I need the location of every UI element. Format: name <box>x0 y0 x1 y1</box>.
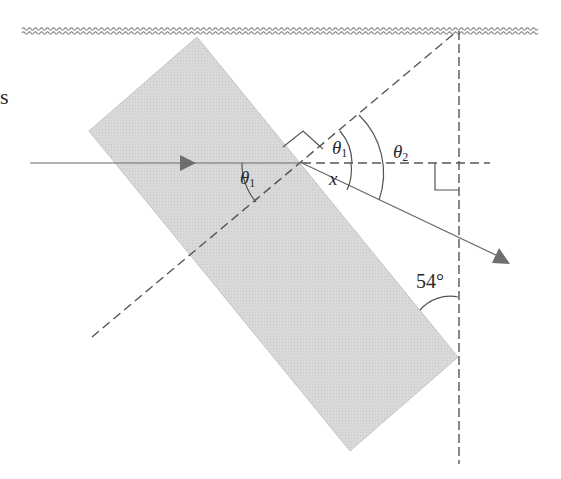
glass-slab <box>89 37 458 451</box>
ceiling-wavy-line <box>22 28 538 34</box>
right-angle-marker-vertical <box>435 163 459 190</box>
right-angle-marker-normal <box>283 131 323 149</box>
theta1-inside-label: θ1 <box>240 168 255 189</box>
refraction-diagram <box>0 0 561 479</box>
edge-text-fragment: s <box>0 84 9 110</box>
angle-54-arc <box>420 296 458 310</box>
theta2-arc <box>359 115 384 200</box>
theta2-label: θ2 <box>393 142 408 163</box>
x-label: x <box>329 169 337 188</box>
theta1-outside-label: θ1 <box>332 138 347 159</box>
refracted-arrow-icon <box>492 248 510 264</box>
angle-54-label: 54° <box>416 271 444 291</box>
